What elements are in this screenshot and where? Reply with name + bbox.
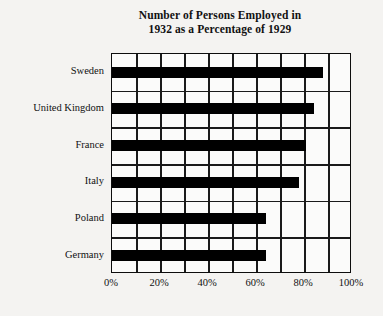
- y-axis-category-labels: SwedenUnited KingdomFranceItalyPolandGer…: [0, 53, 104, 273]
- x-tick-label-100: 100%: [323, 276, 379, 289]
- bar-poland: [112, 213, 266, 224]
- bar-germany: [112, 250, 266, 261]
- bar-sweden: [112, 67, 323, 78]
- category-label-sweden: Sweden: [0, 65, 104, 77]
- bar-row: [112, 91, 350, 128]
- chart-title-line-1: Number of Persons Employed in: [60, 8, 380, 22]
- category-label-germany: Germany: [0, 249, 104, 261]
- category-label-italy: Italy: [0, 175, 104, 187]
- bar-chart-figure: Number of Persons Employed in 1932 as a …: [0, 0, 383, 316]
- bar-row: [112, 201, 350, 238]
- bar-france: [112, 140, 306, 151]
- bar-italy: [112, 177, 299, 188]
- bar-row: [112, 127, 350, 164]
- chart-title: Number of Persons Employed in 1932 as a …: [60, 8, 380, 36]
- category-label-poland: Poland: [0, 212, 104, 224]
- x-axis-tick-labels: 0%20%40%60%80%100%: [0, 276, 383, 296]
- bar-row: [112, 54, 350, 91]
- category-label-france: France: [0, 139, 104, 151]
- bar-row: [112, 164, 350, 201]
- bar-row: [112, 237, 350, 274]
- plot-area: [111, 53, 351, 273]
- chart-title-line-2: 1932 as a Percentage of 1929: [60, 22, 380, 36]
- bar-united-kingdom: [112, 103, 314, 114]
- category-label-united-kingdom: United Kingdom: [0, 102, 104, 114]
